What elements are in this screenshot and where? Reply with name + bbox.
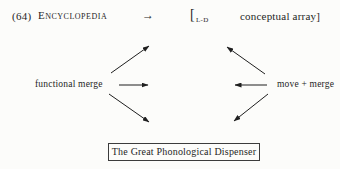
encyclopedia-label: Encyclopedia (38, 9, 107, 21)
bracket-open: [ (190, 7, 195, 23)
bracket-subscript-label: L-D (196, 16, 209, 24)
conceptual-array-label: conceptual array] (240, 10, 320, 22)
example-number: (64) (12, 10, 32, 22)
linguistics-diagram: (64) Encyclopedia → [ L-D conceptual arr… (0, 0, 340, 169)
left-up-diagonal-arrow (111, 46, 149, 73)
functional-merge-label: functional merge (35, 79, 103, 89)
right-up-diagonal-arrow (227, 47, 265, 74)
move-merge-label: move + merge (277, 79, 334, 89)
left-down-diagonal-arrow (109, 94, 149, 122)
maps-to-arrow-glyph: → (142, 8, 154, 23)
phonological-dispenser-box: The Great Phonological Dispenser (108, 143, 260, 161)
right-down-diagonal-arrow (234, 94, 268, 121)
